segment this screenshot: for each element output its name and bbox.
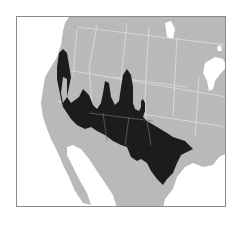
range-map [16, 16, 226, 207]
map-canvas [17, 17, 226, 207]
